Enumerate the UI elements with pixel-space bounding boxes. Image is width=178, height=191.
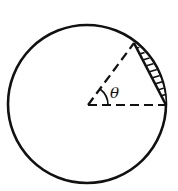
circle-outline bbox=[8, 25, 166, 183]
angle-arc bbox=[100, 89, 108, 105]
circle-segment-diagram: θ bbox=[0, 0, 178, 191]
shaded-segment bbox=[130, 43, 174, 105]
angle-label: θ bbox=[110, 84, 119, 102]
